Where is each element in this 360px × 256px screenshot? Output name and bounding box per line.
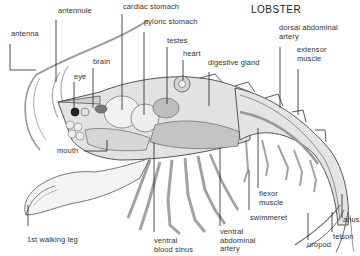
label-eye: eye — [74, 73, 86, 82]
label-ventral-blood-sinus: ventral blood sinus — [154, 237, 193, 254]
label-cardiac-stomach: cardiac stomach — [123, 3, 179, 12]
label-anus: anus — [343, 216, 360, 225]
label-heart: heart — [183, 50, 201, 59]
label-antenna: antenna — [11, 30, 39, 39]
label-telson: telson — [333, 233, 354, 242]
label-extensor-muscle: extensor muscle — [297, 46, 327, 63]
label-1st-walking-leg: 1st walking leg — [27, 236, 78, 245]
diagram-title: LOBSTER — [251, 4, 301, 15]
label-ventral-abdominal-artery: ventral abdominal artery — [220, 228, 256, 254]
label-antennule: antennule — [58, 7, 92, 16]
label-testes: testes — [167, 37, 188, 46]
label-flexor-muscle: flexor muscle — [259, 190, 283, 207]
label-digestive-gland: digestive gland — [208, 59, 260, 68]
label-swimmeret: swimmeret — [250, 214, 287, 223]
label-uropod: uropod — [307, 241, 331, 250]
label-dorsal-abdominal-artery: dorsal abdominal artery — [279, 24, 338, 41]
label-mouth: mouth — [57, 147, 78, 156]
label-brain: brain — [93, 58, 110, 67]
label-pyloric-stomach: pyloric stomach — [144, 18, 198, 27]
